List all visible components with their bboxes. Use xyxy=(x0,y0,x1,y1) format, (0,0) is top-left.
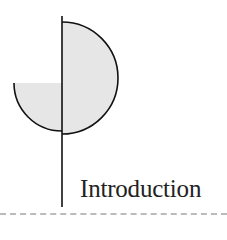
section-title: Introduction xyxy=(80,175,201,203)
dashed-divider xyxy=(0,213,227,215)
right-half-circle xyxy=(62,22,118,134)
